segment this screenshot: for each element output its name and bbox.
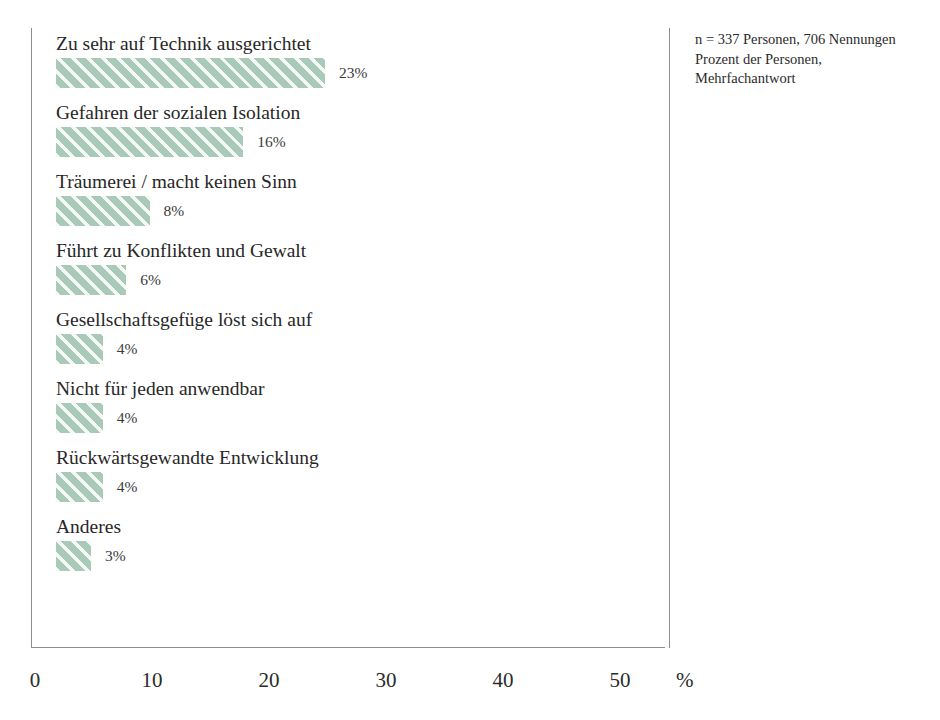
bar-value-label: 8% bbox=[164, 202, 185, 220]
bar-category-label: Rückwärtsgewandte Entwicklung bbox=[56, 448, 319, 468]
note-line: Mehrfachantwort bbox=[695, 69, 935, 89]
bar-fill bbox=[56, 265, 126, 295]
bar-value-label: 6% bbox=[140, 271, 161, 289]
x-axis-tick-label: 10 bbox=[142, 668, 163, 693]
bar-value-label: 23% bbox=[339, 64, 367, 82]
note-panel: n = 337 Personen, 706 NennungenProzent d… bbox=[695, 30, 935, 89]
note-line: n = 337 Personen, 706 Nennungen bbox=[695, 30, 935, 50]
bar-category-label: Gesellschaftsgefüge löst sich auf bbox=[56, 310, 312, 330]
bar-value-label: 4% bbox=[117, 478, 138, 496]
panel-divider bbox=[669, 28, 670, 648]
bar-fill bbox=[56, 196, 150, 226]
x-axis-tick-label: 30 bbox=[376, 668, 397, 693]
bar-category-label: Gefahren der sozialen Isolation bbox=[56, 103, 300, 123]
x-axis: 01020304050% bbox=[0, 668, 940, 708]
bar-category-label: Führt zu Konflikten und Gewalt bbox=[56, 241, 306, 261]
bar-fill bbox=[56, 127, 243, 157]
bar-fill bbox=[56, 472, 103, 502]
bar-category-label: Nicht für jeden anwendbar bbox=[56, 379, 264, 399]
x-axis-tick-label: 40 bbox=[493, 668, 514, 693]
bar-value-label: 3% bbox=[105, 547, 126, 565]
bar-value-label: 16% bbox=[257, 133, 285, 151]
x-axis-tick-label: 20 bbox=[259, 668, 280, 693]
x-axis-tick-label: 50 bbox=[610, 668, 631, 693]
bar-value-label: 4% bbox=[117, 340, 138, 358]
bar-category-label: Zu sehr auf Technik ausgerichtet bbox=[56, 34, 311, 54]
note-line: Prozent der Personen, bbox=[695, 50, 935, 70]
bar-fill bbox=[56, 58, 325, 88]
bar-category-label: Anderes bbox=[56, 517, 121, 537]
bar-fill bbox=[56, 541, 91, 571]
x-axis-unit-label: % bbox=[676, 668, 694, 693]
bar-fill bbox=[56, 334, 103, 364]
bar-value-label: 4% bbox=[117, 409, 138, 427]
bar-chart-plot-area: Zu sehr auf Technik ausgerichtet23%Gefah… bbox=[0, 0, 669, 648]
bar-fill bbox=[56, 403, 103, 433]
bar-category-label: Träumerei / macht keinen Sinn bbox=[56, 172, 297, 192]
x-axis-tick-label: 0 bbox=[30, 668, 41, 693]
